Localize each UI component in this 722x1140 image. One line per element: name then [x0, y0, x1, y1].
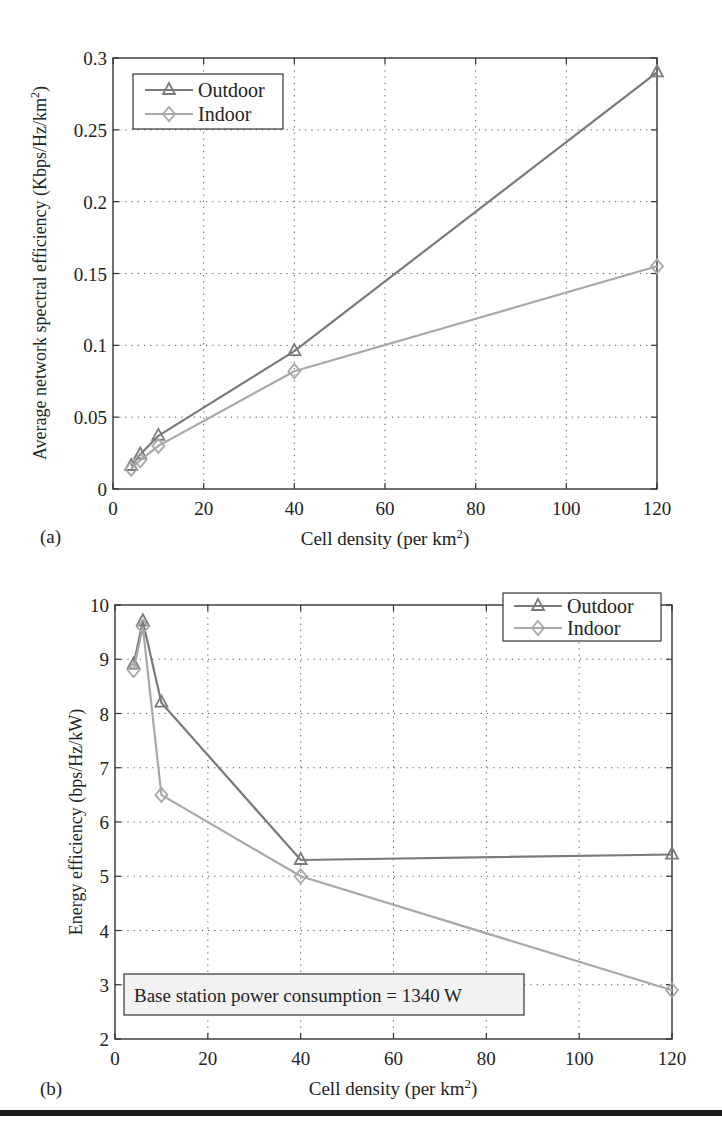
panel-label-b: (b) — [40, 1078, 62, 1100]
x-tick-label: 120 — [643, 498, 672, 519]
y-tick-label: 0.25 — [74, 120, 107, 141]
y-tick-label: 8 — [100, 704, 110, 725]
x-tick-label: 100 — [565, 1048, 594, 1069]
y-tick-label: 9 — [100, 649, 110, 670]
x-tick-label: 120 — [658, 1048, 687, 1069]
y-tick-label: 0.1 — [83, 335, 107, 356]
x-axis-label: Cell density (per km2) — [301, 526, 470, 550]
x-tick-label: 100 — [552, 498, 581, 519]
y-tick-label: 0.2 — [83, 192, 107, 213]
series-line-outdoor — [134, 621, 672, 860]
y-tick-label: 10 — [90, 595, 109, 616]
data-series — [128, 614, 678, 997]
legend: Outdoor Indoor — [133, 74, 283, 129]
x-tick-label: 0 — [108, 498, 118, 519]
y-axis-label: Energy efficiency (bps/Hz/kW) — [66, 709, 87, 935]
y-tick-label: 6 — [100, 812, 110, 833]
y-tick-label: 4 — [100, 921, 110, 942]
legend-indoor-label: Indoor — [198, 103, 252, 125]
x-axis-label: Cell density (per km2) — [309, 1076, 478, 1100]
annotation-box: Base station power consumption = 1340 W — [124, 974, 524, 1015]
series-line-indoor — [134, 627, 672, 991]
y-tick-label: 0.05 — [74, 407, 107, 428]
page-divider-rule — [0, 1110, 722, 1116]
chart-energy-efficiency: 0204060801001202345678910 Outdoor Indoor… — [0, 560, 722, 1100]
x-tick-label: 40 — [285, 498, 304, 519]
series-line-indoor — [131, 266, 657, 469]
legend-outdoor-label: Outdoor — [198, 79, 265, 101]
x-tick-label: 20 — [198, 1048, 217, 1069]
panel-label-a: (a) — [40, 526, 61, 548]
y-tick-label: 0.15 — [74, 264, 107, 285]
x-tick-label: 60 — [376, 498, 395, 519]
y-tick-label: 7 — [100, 758, 110, 779]
legend-indoor-label: Indoor — [567, 617, 621, 639]
y-tick-label: 0.3 — [83, 48, 107, 69]
x-tick-label: 60 — [384, 1048, 403, 1069]
x-tick-label: 0 — [110, 1048, 120, 1069]
x-tick-label: 80 — [466, 498, 485, 519]
legend: Outdoor Indoor — [503, 593, 661, 641]
legend-outdoor-label: Outdoor — [567, 595, 634, 617]
y-tick-label: 0 — [98, 479, 108, 500]
y-tick-label: 5 — [100, 866, 110, 887]
y-axis-label: Average network spectral efficiency (Kbp… — [28, 86, 51, 460]
series-line-outdoor — [131, 72, 657, 466]
x-tick-label: 20 — [194, 498, 213, 519]
x-tick-label: 80 — [477, 1048, 496, 1069]
x-tick-label: 40 — [291, 1048, 310, 1069]
y-tick-label: 3 — [100, 975, 110, 996]
chart-spectral-efficiency: 02040608010012000.050.10.150.20.250.3 Ou… — [0, 0, 722, 560]
annotation-text: Base station power consumption = 1340 W — [134, 985, 462, 1006]
y-tick-label: 2 — [100, 1029, 110, 1050]
